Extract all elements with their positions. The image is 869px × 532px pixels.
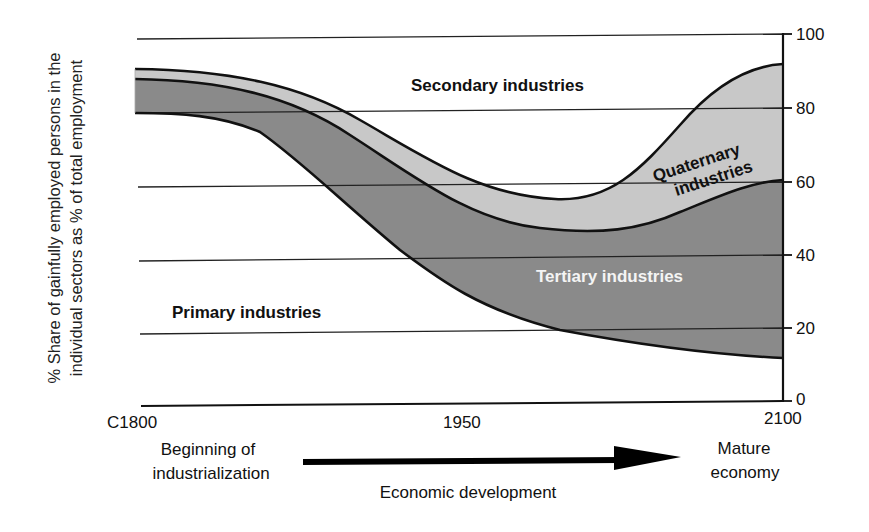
sector-employment-chart: 100 80 60 40 20 0 C1800 1950 2100 % Shar…	[0, 0, 869, 532]
x-axis-baseline	[141, 401, 783, 406]
y-tick-40: 40	[796, 246, 815, 265]
y-axis-title-line2: individual sectors as % of total employm…	[67, 59, 85, 376]
y-tick-60: 60	[796, 173, 815, 192]
x-tick-1950: 1950	[443, 413, 481, 432]
label-tertiary-industries: Tertiary industries	[536, 267, 683, 286]
y-axis-title-line1: % Share of gainfully employed persons in…	[45, 52, 63, 383]
start-caption-line1: Beginning of	[161, 440, 256, 459]
label-primary-industries: Primary industries	[172, 303, 321, 322]
y-tick-labels: 100 80 60 40 20 0	[796, 25, 824, 409]
development-arrow-shaft	[303, 460, 620, 462]
arrow-caption: Economic development	[380, 483, 557, 502]
y-tick-100: 100	[796, 25, 824, 44]
y-axis-ticks	[783, 34, 792, 401]
y-tick-0: 0	[796, 390, 805, 409]
x-tick-c1800: C1800	[107, 413, 157, 432]
end-caption-line2: economy	[711, 463, 780, 482]
start-caption-line2: industrialization	[152, 464, 269, 483]
y-tick-20: 20	[796, 319, 815, 338]
development-arrow-head	[614, 446, 681, 470]
end-caption-line1: Mature	[718, 439, 771, 458]
label-secondary-industries: Secondary industries	[411, 76, 584, 95]
y-axis-title: % Share of gainfully employed persons in…	[45, 52, 85, 383]
x-tick-2100: 2100	[764, 409, 802, 428]
y-tick-80: 80	[796, 99, 815, 118]
